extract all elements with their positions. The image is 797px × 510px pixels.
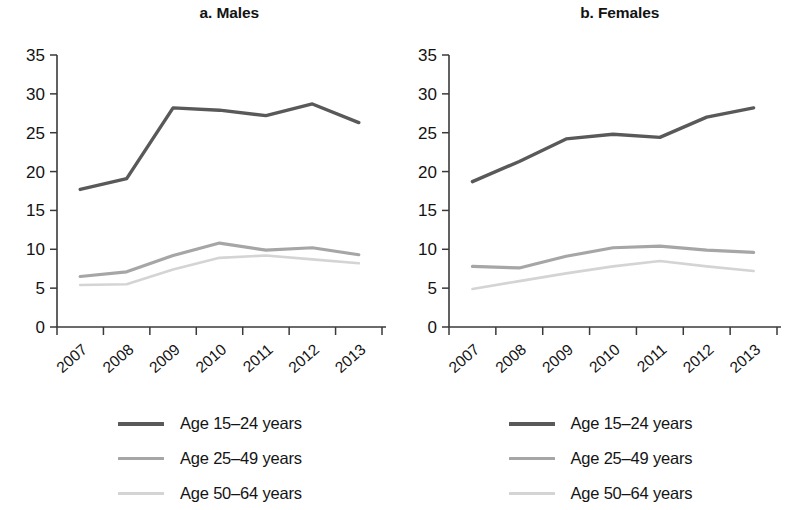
- y-tick-label: 20: [418, 163, 437, 182]
- legend-swatch-age-25-49: [509, 457, 555, 461]
- legend-item-age-15-24: Age 15–24 years: [399, 406, 797, 441]
- panel-females: b. Females 05101520253035200720082009201…: [399, 0, 797, 510]
- series-line-age-50-64-years: [80, 256, 359, 286]
- legend-swatch-age-15-24: [509, 422, 555, 426]
- x-tick-label: 2007: [53, 340, 90, 375]
- x-tick-label: 2012: [679, 340, 716, 375]
- y-tick-label: 25: [26, 124, 45, 143]
- legend-item-age-15-24: Age 15–24 years: [0, 406, 399, 441]
- x-tick-label: 2008: [492, 340, 529, 375]
- legend-item-age-25-49: Age 25–49 years: [0, 441, 399, 476]
- legend-label-age-15-24: Age 15–24 years: [180, 414, 302, 433]
- y-tick-label: 0: [36, 318, 45, 337]
- legend-item-age-25-49: Age 25–49 years: [399, 441, 797, 476]
- series-line-age-25-49-years: [472, 246, 753, 268]
- legend-label-age-50-64: Age 50–64 years: [180, 484, 302, 503]
- series-line-age-15-24-years: [80, 104, 359, 189]
- legend-label-age-25-49: Age 25–49 years: [180, 449, 302, 468]
- y-tick-label: 15: [418, 201, 437, 220]
- figure: a. Males 0510152025303520072008200920102…: [0, 0, 797, 510]
- y-tick-label: 10: [418, 240, 437, 259]
- x-tick-label: 2007: [445, 340, 482, 375]
- series-line-age-50-64-years: [472, 261, 753, 289]
- x-tick-label: 2009: [538, 340, 575, 375]
- legend-item-age-50-64: Age 50–64 years: [0, 476, 399, 510]
- x-tick-label: 2013: [332, 340, 369, 375]
- panel-males: a. Males 0510152025303520072008200920102…: [0, 0, 399, 510]
- legend-swatch-age-50-64: [509, 492, 555, 495]
- legend-females: Age 15–24 years Age 25–49 years Age 50–6…: [399, 406, 797, 510]
- legend-label-age-15-24: Age 15–24 years: [571, 414, 693, 433]
- legend-males: Age 15–24 years Age 25–49 years Age 50–6…: [0, 406, 399, 510]
- y-tick-label: 10: [26, 240, 45, 259]
- legend-swatch-age-25-49: [118, 457, 164, 461]
- plot-area-males: 0510152025303520072008200920102011201220…: [0, 0, 399, 400]
- plot-area-females: 0510152025303520072008200920102011201220…: [399, 0, 797, 400]
- y-tick-label: 30: [418, 85, 437, 104]
- y-tick-label: 35: [26, 46, 45, 65]
- x-tick-label: 2011: [240, 340, 276, 375]
- y-tick-label: 5: [427, 279, 436, 298]
- legend-swatch-age-50-64: [118, 492, 164, 495]
- legend-item-age-50-64: Age 50–64 years: [399, 476, 797, 510]
- x-tick-label: 2010: [585, 340, 622, 376]
- x-tick-label: 2010: [192, 340, 229, 376]
- y-tick-label: 20: [26, 163, 45, 182]
- y-tick-label: 5: [36, 279, 45, 298]
- y-tick-label: 0: [427, 318, 436, 337]
- x-tick-label: 2011: [633, 340, 669, 375]
- legend-label-age-25-49: Age 25–49 years: [571, 449, 693, 468]
- legend-swatch-age-15-24: [118, 422, 164, 426]
- x-tick-label: 2009: [146, 340, 183, 375]
- y-tick-label: 15: [26, 201, 45, 220]
- x-tick-label: 2008: [99, 340, 136, 375]
- y-tick-label: 30: [26, 85, 45, 104]
- legend-label-age-50-64: Age 50–64 years: [571, 484, 693, 503]
- y-tick-label: 25: [418, 124, 437, 143]
- x-tick-label: 2013: [726, 340, 763, 375]
- x-tick-label: 2012: [285, 340, 322, 375]
- y-tick-label: 35: [418, 46, 437, 65]
- series-line-age-15-24-years: [472, 108, 753, 182]
